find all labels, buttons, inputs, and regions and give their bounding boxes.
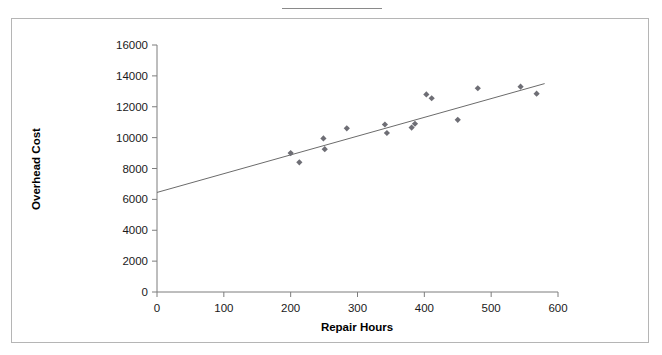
x-tick-label: 100 bbox=[214, 302, 233, 314]
x-tick-label: 400 bbox=[415, 302, 434, 314]
x-tick-label: 600 bbox=[548, 302, 567, 314]
x-tick-label: 0 bbox=[154, 302, 160, 314]
data-point-marker bbox=[429, 95, 435, 101]
y-tick-label: 8000 bbox=[122, 163, 148, 175]
y-tick-label: 12000 bbox=[116, 101, 148, 113]
y-tick-label: 14000 bbox=[116, 70, 148, 82]
x-axis-ticks: 0100200300400500600 bbox=[154, 292, 568, 314]
x-tick-label: 200 bbox=[281, 302, 300, 314]
y-tick-label: 4000 bbox=[122, 224, 148, 236]
scatter-plot-chart: 0200040006000800010000120001400016000 01… bbox=[12, 19, 650, 344]
x-tick-label: 300 bbox=[348, 302, 367, 314]
y-tick-label: 10000 bbox=[116, 132, 148, 144]
data-point-marker bbox=[517, 84, 523, 90]
y-tick-label: 6000 bbox=[122, 193, 148, 205]
data-point-marker bbox=[534, 91, 540, 97]
data-point-marker bbox=[344, 125, 350, 131]
data-point-marker bbox=[320, 135, 326, 141]
data-point-marker bbox=[423, 91, 429, 97]
data-point-marker bbox=[475, 85, 481, 91]
y-axis-title: Overhead Cost bbox=[30, 128, 42, 210]
figure-root: 0200040006000800010000120001400016000 01… bbox=[0, 0, 662, 355]
data-point-marker bbox=[455, 117, 461, 123]
data-point-marker bbox=[384, 130, 390, 136]
data-point-marker bbox=[322, 146, 328, 152]
x-tick-label: 500 bbox=[482, 302, 501, 314]
y-tick-label: 0 bbox=[142, 286, 148, 298]
y-tick-label: 2000 bbox=[122, 255, 148, 267]
x-axis-title: Repair Hours bbox=[321, 321, 393, 333]
data-point-marker bbox=[382, 121, 388, 127]
trend-line bbox=[157, 84, 545, 193]
data-point-marker bbox=[296, 159, 302, 165]
axes-group bbox=[157, 45, 558, 292]
y-tick-label: 16000 bbox=[116, 39, 148, 51]
figure-frame: 0200040006000800010000120001400016000 01… bbox=[11, 18, 649, 343]
regression-trend-line bbox=[157, 84, 545, 193]
top-rule-divider bbox=[282, 8, 382, 9]
y-axis-ticks: 0200040006000800010000120001400016000 bbox=[116, 39, 157, 298]
